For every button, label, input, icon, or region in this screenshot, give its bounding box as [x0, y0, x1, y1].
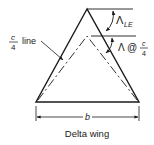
- qc-sweep-num: c: [142, 40, 146, 47]
- c4-label-num: c: [11, 33, 15, 42]
- caption: Delta wing: [65, 128, 109, 139]
- delta-wing-diagram: Λ LE Λ @ c 4 c 4 line b Delta wing: [0, 0, 154, 145]
- le-sweep-arc: [106, 11, 113, 31]
- c4-leader-arrow: [41, 41, 63, 60]
- diagram-canvas: Λ LE Λ @ c 4 c 4 line b Delta wing: [0, 0, 154, 145]
- c4-label-den: 4: [11, 43, 16, 52]
- qc-sweep-symbol: Λ @: [118, 42, 137, 53]
- c4-label-suffix: line: [22, 36, 36, 46]
- le-sweep-subscript: LE: [124, 21, 133, 28]
- qc-sweep-den: 4: [142, 50, 146, 57]
- le-sweep-symbol: Λ: [116, 14, 124, 26]
- span-label: b: [85, 112, 90, 122]
